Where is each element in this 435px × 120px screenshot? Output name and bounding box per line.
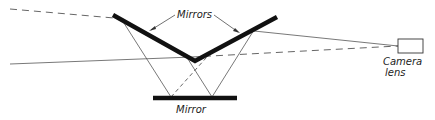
mirror-label: Mirror <box>176 104 207 115</box>
lens-label: lens <box>385 67 405 78</box>
ray-to-camera-solid <box>254 31 398 46</box>
incoming-dashed-ray <box>10 9 114 18</box>
camera-label: Camera <box>383 56 422 67</box>
camera-lens-box <box>398 39 423 53</box>
mirrors-label: Mirrors <box>177 9 212 20</box>
arrowhead-right-icon <box>233 28 240 33</box>
ray-center-down <box>186 56 212 97</box>
arrowhead-left-icon <box>149 26 156 31</box>
incoming-solid-ray <box>10 57 192 64</box>
mirror-diagram: Mirrors Mirror Camera lens <box>0 0 435 120</box>
